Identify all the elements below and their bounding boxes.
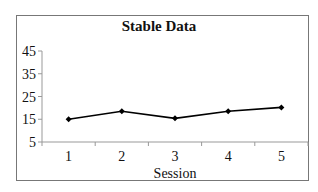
- y-tick-label: 15: [22, 112, 36, 127]
- data-point-marker: [225, 108, 231, 114]
- x-tick-label: 4: [225, 149, 232, 164]
- x-tick-label: 1: [65, 149, 72, 164]
- y-tick-label: 35: [22, 67, 36, 82]
- y-axis: 515253545: [22, 44, 42, 150]
- x-axis-title: Session: [154, 166, 197, 181]
- data-point-marker: [66, 116, 72, 122]
- y-tick-label: 25: [22, 90, 36, 105]
- data-series: [66, 104, 285, 122]
- x-tick-label: 3: [172, 149, 179, 164]
- y-tick-label: 5: [29, 135, 36, 150]
- x-axis: 12345: [42, 142, 308, 164]
- line-chart: 515253545 12345 Session: [0, 0, 318, 192]
- x-tick-label: 2: [118, 149, 125, 164]
- x-tick-label: 5: [278, 149, 285, 164]
- data-point-marker: [119, 108, 125, 114]
- y-tick-label: 45: [22, 44, 36, 59]
- data-point-marker: [278, 104, 284, 110]
- data-point-marker: [172, 115, 178, 121]
